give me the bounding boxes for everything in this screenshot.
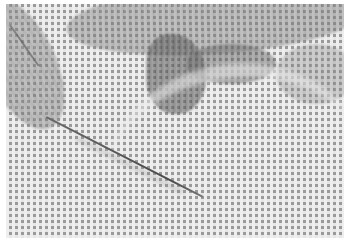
- needlepoint-photo: [6, 4, 344, 238]
